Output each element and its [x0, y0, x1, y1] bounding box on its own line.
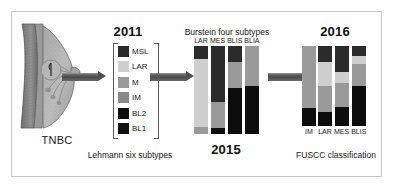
bar-segment	[245, 46, 259, 86]
bar-segment	[211, 46, 225, 102]
year-2011: 2011	[96, 24, 160, 39]
legend-item-label: LAR	[132, 61, 148, 72]
legend-item-label: BL2	[132, 108, 146, 119]
legend-swatch-icon	[118, 123, 129, 134]
caption-fuscc: FUSCC classification	[292, 150, 380, 160]
bar-column-lar: LAR	[194, 37, 208, 134]
year-2015: 2015	[190, 142, 262, 157]
bar-segment	[318, 112, 332, 126]
bar-column-blis: BLIS	[351, 46, 366, 137]
bar-segment	[194, 59, 208, 127]
legend-item-label: M	[132, 77, 139, 88]
bar-segment	[211, 128, 225, 134]
bar-label: LAR	[318, 128, 332, 137]
bar-segment	[318, 86, 332, 112]
bar-column-blia: BLIA	[244, 37, 259, 134]
bar-label: BLIA	[244, 37, 259, 46]
legend-item-im: IM	[118, 92, 154, 104]
tnbc-label: TNBC	[18, 134, 96, 146]
legend-swatch-icon	[118, 61, 129, 72]
bar-segment	[302, 46, 316, 108]
legend-item-label: BL1	[132, 123, 146, 134]
bracket-right-icon	[154, 43, 159, 139]
legend-swatch-icon	[118, 46, 129, 57]
stacked-bar	[352, 46, 366, 126]
legend-item-m: M	[118, 76, 154, 88]
stacked-bar	[228, 46, 242, 134]
bar-segment	[228, 88, 242, 134]
bar-segment	[211, 102, 225, 128]
legend-swatch-icon	[118, 108, 129, 119]
caption-burstein: Burstein four subtypes	[180, 27, 274, 37]
legend-item-label: MSL	[132, 46, 148, 57]
bar-label: MES	[334, 128, 349, 137]
stacked-bar	[318, 46, 332, 126]
arrow-head	[98, 71, 106, 81]
year-2016: 2016	[302, 24, 368, 39]
bar-column-blis: BLIS	[227, 37, 242, 134]
lehmann-legend-rows: MSLLARMIMBL2BL1	[118, 45, 154, 135]
legend-item-bl2: BL2	[118, 107, 154, 119]
bar-column-mes: MES	[210, 37, 225, 134]
legend-item-label: IM	[132, 92, 141, 103]
bar-segment	[194, 127, 208, 134]
bar-segment	[352, 46, 366, 56]
fuscc-bar-group: IMLARMESBLIS	[302, 46, 366, 137]
bar-segment	[335, 46, 349, 72]
legend-swatch-icon	[118, 77, 129, 88]
bar-segment	[352, 56, 366, 64]
bar-segment	[352, 64, 366, 86]
bar-label: BLIS	[351, 128, 366, 137]
figure-root: TNBC 2011 MSLLARMIMBL2BL1 Lehmann six su…	[0, 0, 393, 188]
bar-segment	[335, 83, 349, 107]
bar-column-mes: MES	[334, 46, 349, 137]
bar-segment	[318, 46, 332, 62]
bar-segment	[352, 86, 366, 126]
lehmann-legend: MSLLARMIMBL2BL1	[113, 43, 159, 137]
bar-segment	[318, 62, 332, 86]
arrow-shaft	[268, 73, 302, 81]
stacked-bar	[194, 46, 208, 134]
bar-segment	[228, 62, 242, 88]
bar-column-lar: LAR	[318, 46, 332, 137]
bar-label: MES	[210, 37, 225, 46]
bar-column-im: IM	[302, 46, 316, 137]
bar-segment	[245, 86, 259, 134]
arrow-shaft	[62, 73, 98, 81]
bar-segment	[335, 107, 349, 126]
stacked-bar	[245, 46, 259, 134]
bar-label: BLIS	[227, 37, 242, 46]
burstein-bar-group: LARMESBLISBLIA	[194, 37, 260, 134]
stacked-bar	[211, 46, 225, 134]
legend-swatch-icon	[118, 92, 129, 103]
caption-lehmann: Lehmann six subtypes	[78, 150, 182, 160]
bar-segment	[335, 72, 349, 82]
stacked-bar	[335, 46, 349, 126]
bar-segment	[228, 46, 242, 62]
arrow-tnbc-to-lehmann	[62, 72, 106, 81]
bar-label: LAR	[194, 37, 208, 46]
legend-item-msl: MSL	[118, 45, 154, 57]
stacked-bar	[302, 46, 316, 126]
bar-segment	[194, 46, 208, 59]
bar-segment	[302, 108, 316, 126]
bar-label: IM	[305, 128, 313, 137]
legend-item-lar: LAR	[118, 61, 154, 73]
legend-item-bl1: BL1	[118, 123, 154, 135]
arrow-head	[186, 71, 194, 81]
